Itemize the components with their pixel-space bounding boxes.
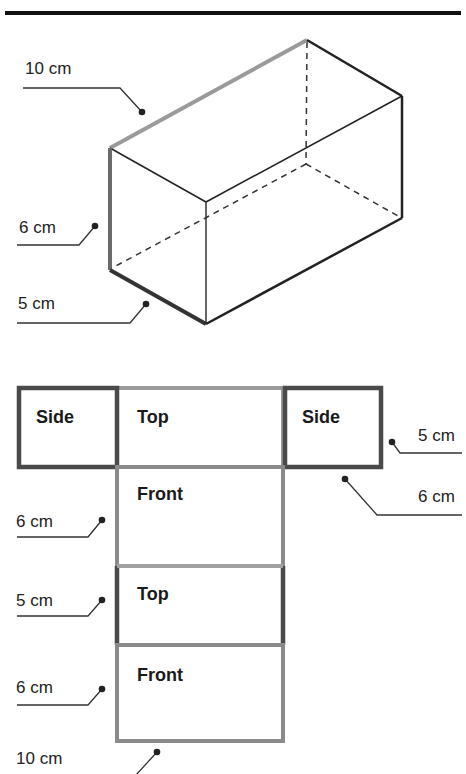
diagram-canvas: 10 cm 6 cm 5 cm Side Top Side Front Top …: [0, 0, 466, 774]
edge-bottom-width: [110, 270, 206, 324]
edge-top-front: [110, 148, 206, 202]
label-height: 6 cm: [19, 218, 56, 237]
prism-label-height: 6 cm: [17, 218, 98, 245]
edge-top-front-long: [206, 96, 402, 202]
net-face-front-2: [117, 645, 283, 741]
net-figure: [19, 388, 381, 741]
label-front1-height: 6 cm: [16, 512, 53, 531]
face-label-top-1: Top: [137, 407, 169, 427]
label-side-width: 5 cm: [418, 426, 455, 445]
net-label-front1-height: 6 cm: [16, 512, 105, 537]
face-label-side-right: Side: [302, 407, 340, 427]
net-face-side-right: [285, 388, 381, 467]
face-label-side-left: Side: [36, 407, 74, 427]
label-top2-width: 5 cm: [16, 591, 53, 610]
edge-top-back: [110, 40, 307, 148]
net-label-top2-width: 5 cm: [16, 591, 105, 616]
label-bottom-length: 10 cm: [16, 749, 62, 768]
net-face-side-left: [19, 388, 117, 467]
face-label-front-2: Front: [137, 665, 183, 685]
prism-figure: [110, 40, 402, 324]
hidden-edges: [112, 42, 398, 268]
net-face-front-1: [117, 467, 283, 566]
edge-top-right: [307, 40, 402, 96]
face-label-front-1: Front: [137, 484, 183, 504]
label-width: 5 cm: [18, 294, 55, 313]
face-label-top-2: Top: [137, 584, 169, 604]
prism-label-length: 10 cm: [23, 59, 145, 115]
edge-bottom-length: [206, 218, 402, 324]
label-length: 10 cm: [25, 59, 71, 78]
prism-label-width: 5 cm: [17, 294, 149, 323]
label-front2-height: 6 cm: [16, 678, 53, 697]
net-label-bottom-length: 10 cm: [16, 749, 160, 774]
label-side-height: 6 cm: [418, 487, 455, 506]
net-face-top-1: [117, 388, 283, 467]
net-label-front2-height: 6 cm: [16, 678, 105, 705]
net-label-side-height: 6 cm: [342, 476, 462, 515]
net-label-side-width: 5 cm: [389, 426, 462, 453]
